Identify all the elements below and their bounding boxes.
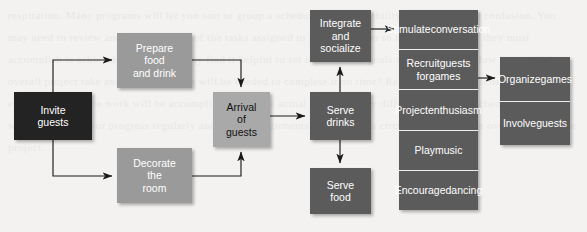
node-label: Stimulateconversation: [387, 23, 490, 35]
node-prepare-food[interactable]: Preparefoodand drink: [117, 33, 192, 88]
stack-socialize-tactics: StimulateconversationRecruitguests forga…: [399, 10, 478, 210]
node-label: Recruitguests forgames: [399, 57, 478, 82]
node-integrate-socialize[interactable]: Integrateandsocialize: [310, 10, 371, 62]
node-label: Arrivalofguests: [226, 101, 257, 138]
node-stimulate-conversation[interactable]: Stimulateconversation: [399, 10, 478, 50]
connector-prepare-to-arrival: [192, 60, 241, 87]
node-encourage-dancing[interactable]: Encouragedancing: [399, 171, 478, 210]
node-project-enthusiasm[interactable]: Projectenthusiasm: [399, 90, 478, 130]
connector-decorate-to-arrival: [192, 152, 241, 176]
node-recruit-guests-games[interactable]: Recruitguests forgames: [399, 50, 478, 90]
flowchart-canvas: respiration. Many programs will let you …: [0, 0, 587, 232]
stack-games-tactics: OrganizegamesInvolveguests: [500, 57, 570, 145]
node-label: Preparefoodand drink: [133, 42, 176, 79]
node-decorate-room[interactable]: Decoratetheroom: [117, 148, 192, 203]
node-serve-food[interactable]: Servefood: [310, 168, 371, 214]
connector-invite-to-decorate: [53, 140, 112, 176]
node-label: Inviteguests: [38, 104, 69, 129]
node-label: Projectenthusiasm: [395, 104, 481, 116]
node-involve-guests[interactable]: Involveguests: [500, 102, 570, 146]
node-arrival-of-guests[interactable]: Arrivalofguests: [213, 92, 270, 147]
node-label: Servedrinks: [326, 104, 354, 129]
node-label: Decoratetheroom: [133, 157, 176, 194]
node-label: Encouragedancing: [395, 184, 483, 196]
node-label: Playmusic: [415, 144, 463, 156]
node-label: Organizegames: [498, 73, 572, 85]
node-label: Servefood: [327, 179, 354, 204]
node-label: Integrateandsocialize: [320, 17, 361, 54]
node-organize-games[interactable]: Organizegames: [500, 57, 570, 102]
connector-invite-to-prepare: [53, 60, 112, 92]
node-play-music[interactable]: Playmusic: [399, 131, 478, 171]
node-label: Involveguests: [503, 117, 567, 129]
node-serve-drinks[interactable]: Servedrinks: [310, 92, 371, 140]
node-invite-guests[interactable]: Inviteguests: [14, 92, 92, 140]
